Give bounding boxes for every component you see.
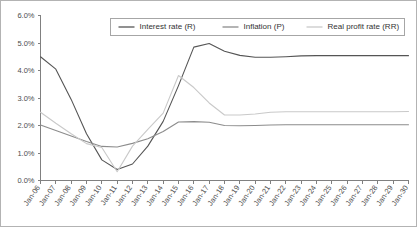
legend-label-1: Interest rate (R) bbox=[140, 22, 196, 31]
series-line-2 bbox=[41, 122, 409, 147]
y-tick-label: 6.0% bbox=[17, 11, 34, 20]
x-tick-label: Jan-30 bbox=[390, 183, 411, 207]
legend-label-2: Inflation (P) bbox=[244, 22, 285, 31]
y-tick-label: 5.0% bbox=[17, 39, 34, 48]
y-tick-label: 1.0% bbox=[17, 149, 34, 158]
y-tick-label: 0.0% bbox=[17, 176, 34, 185]
y-tick-label: 3.0% bbox=[17, 94, 34, 103]
chart-figure: 0.0%1.0%2.0%3.0%4.0%5.0%6.0%Jan-06Jan-07… bbox=[0, 0, 417, 227]
legend-label-3: Real profit rate (RR) bbox=[328, 22, 400, 31]
line-chart: 0.0%1.0%2.0%3.0%4.0%5.0%6.0%Jan-06Jan-07… bbox=[0, 0, 417, 227]
y-tick-label: 2.0% bbox=[17, 121, 34, 130]
series-line-3 bbox=[41, 75, 409, 171]
series-line-1 bbox=[41, 44, 409, 170]
y-tick-label: 4.0% bbox=[17, 66, 34, 75]
